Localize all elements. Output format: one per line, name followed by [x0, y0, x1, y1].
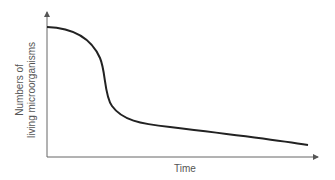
y-axis-label-line1: Numbers of: [14, 64, 25, 116]
y-axis-label-line2: living microorganisms: [26, 42, 37, 138]
chart: Time Numbers of living microorganisms: [0, 0, 335, 180]
survival-curve: [47, 27, 308, 145]
x-axis-label: Time: [174, 163, 196, 174]
